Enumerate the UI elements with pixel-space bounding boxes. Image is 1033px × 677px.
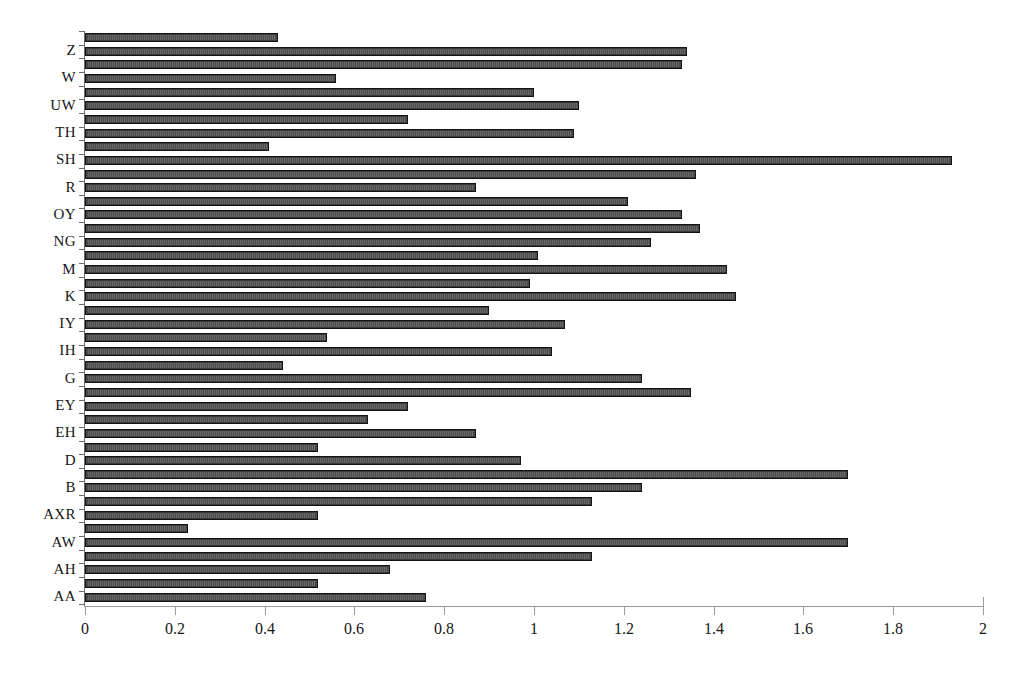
bar xyxy=(85,565,390,574)
bar-fill xyxy=(87,404,406,409)
bar-fill xyxy=(87,335,325,340)
bar-fill xyxy=(87,431,474,436)
bar-fill xyxy=(87,240,649,245)
bar xyxy=(85,88,534,97)
y-axis-tick xyxy=(79,58,85,59)
bar xyxy=(85,511,318,520)
bar xyxy=(85,483,642,492)
bar-fill xyxy=(87,158,950,163)
bar xyxy=(85,238,651,247)
y-axis-tick xyxy=(79,509,85,510)
bar-fill xyxy=(87,49,685,54)
y-axis-label-text: EH xyxy=(30,425,76,440)
bar xyxy=(85,292,736,301)
x-axis-tick xyxy=(624,606,625,615)
y-axis-tick xyxy=(79,263,85,264)
bar xyxy=(85,74,336,83)
x-axis-tick-label: 1.4 xyxy=(684,620,744,638)
bar-fill xyxy=(87,526,186,531)
y-axis-tick xyxy=(79,413,85,414)
bar xyxy=(85,388,691,397)
x-axis-tick-label: 0 xyxy=(55,620,115,638)
bar-fill xyxy=(87,131,572,136)
x-axis-tick-label: 1 xyxy=(504,620,564,638)
y-axis-label-text: AW xyxy=(30,535,76,550)
bar-fill xyxy=(87,76,334,81)
y-axis-tick xyxy=(79,522,85,523)
bar-fill xyxy=(87,513,316,518)
y-axis-label-text: TH xyxy=(30,125,76,140)
y-axis-label-text: OY xyxy=(30,207,76,222)
x-axis-tick xyxy=(265,606,266,615)
bar-fill xyxy=(87,62,680,67)
bar xyxy=(85,47,687,56)
bar-fill xyxy=(87,595,424,600)
y-axis-label-b: B xyxy=(0,480,76,495)
bar-fill xyxy=(87,472,846,477)
y-axis-label-uw: UW xyxy=(0,98,76,113)
x-axis-tick xyxy=(175,606,176,615)
bar-fill xyxy=(87,185,474,190)
bar xyxy=(85,429,476,438)
bar-fill xyxy=(87,417,366,422)
bar-fill xyxy=(87,390,689,395)
bar xyxy=(85,279,530,288)
y-axis-tick xyxy=(79,454,85,455)
bar xyxy=(85,60,682,69)
y-axis-tick xyxy=(79,536,85,537)
bar xyxy=(85,497,592,506)
bar-fill xyxy=(87,540,846,545)
y-axis-label-text: Z xyxy=(30,43,76,58)
bar-fill xyxy=(87,308,487,313)
bar-fill xyxy=(87,376,640,381)
y-axis-label-text: R xyxy=(30,180,76,195)
y-axis-label-text: G xyxy=(30,371,76,386)
y-axis-label-text: AA xyxy=(30,589,76,604)
bar xyxy=(85,538,848,547)
y-axis-label-aa: AA xyxy=(0,589,76,604)
x-axis-tick xyxy=(803,606,804,615)
x-axis-tick-label: 1.2 xyxy=(594,620,654,638)
y-axis-tick xyxy=(79,495,85,496)
bar-fill xyxy=(87,581,316,586)
bar xyxy=(85,156,952,165)
y-axis-tick xyxy=(79,99,85,100)
bar xyxy=(85,183,476,192)
bar-fill xyxy=(87,445,316,450)
x-axis-tick xyxy=(534,606,535,615)
bar xyxy=(85,224,700,233)
y-axis-tick xyxy=(79,208,85,209)
y-axis-label-text: AXR xyxy=(30,507,76,522)
y-axis-tick xyxy=(79,140,85,141)
bar xyxy=(85,251,538,260)
y-axis-label-iy: IY xyxy=(0,316,76,331)
bar-fill xyxy=(87,199,626,204)
y-axis-label-text: K xyxy=(30,289,76,304)
y-axis-label-text: D xyxy=(30,453,76,468)
y-axis-label-text: AH xyxy=(30,562,76,577)
y-axis-label-z: Z xyxy=(0,43,76,58)
bar xyxy=(85,402,408,411)
bar xyxy=(85,33,278,42)
y-axis-label-eh: EH xyxy=(0,425,76,440)
y-axis-tick xyxy=(79,427,85,428)
bar-fill xyxy=(87,103,577,108)
y-axis-tick xyxy=(79,591,85,592)
y-axis-label-text: B xyxy=(30,480,76,495)
x-axis-tick-label: 0.8 xyxy=(414,620,474,638)
y-axis-label-text: UW xyxy=(30,98,76,113)
y-axis-tick xyxy=(79,290,85,291)
bar xyxy=(85,456,521,465)
bar xyxy=(85,115,408,124)
y-axis-label-text: IH xyxy=(30,343,76,358)
y-axis-tick xyxy=(79,577,85,578)
x-axis-tick xyxy=(354,606,355,615)
bar-fill xyxy=(87,554,590,559)
x-axis-tick-label: 1.6 xyxy=(773,620,833,638)
bar xyxy=(85,415,368,424)
bar xyxy=(85,470,848,479)
y-axis-label-text: EY xyxy=(30,398,76,413)
y-axis-tick xyxy=(79,604,85,605)
y-axis-label-g: G xyxy=(0,371,76,386)
x-axis-tick-label: 2 xyxy=(953,620,1013,638)
